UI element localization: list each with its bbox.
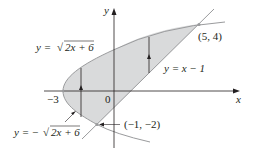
- svg-text:√: √: [43, 126, 50, 138]
- y-axis-label: y: [103, 4, 109, 16]
- point-5-4: [197, 23, 200, 26]
- point-label-5-4: (5, 4): [198, 30, 222, 43]
- origin-label: 0: [105, 93, 111, 105]
- upper-curve-label: y = √ 2x + 6: [35, 41, 94, 53]
- tick-label-neg3: −3: [47, 93, 59, 105]
- svg-text:y =: y =: [35, 41, 51, 53]
- svg-text:2x + 6: 2x + 6: [65, 41, 94, 53]
- region-diagram: y x 0 −3 y = √ 2x + 6 y = − √ 2x + 6 y =…: [0, 0, 255, 152]
- lower-curve-leader-arrow-icon: [71, 111, 76, 115]
- lower-curve-label: y = − √ 2x + 6: [13, 126, 80, 138]
- x-axis-label: x: [235, 93, 241, 105]
- y-axis-arrow-icon: [112, 8, 117, 15]
- point-neg3-0: [62, 90, 65, 93]
- svg-text:y = −: y = −: [13, 126, 39, 138]
- svg-text:√: √: [57, 41, 64, 53]
- line-label: y = x − 1: [163, 62, 205, 74]
- point-label-neg1-neg2: (−1, −2): [124, 118, 161, 131]
- svg-text:2x + 6: 2x + 6: [51, 126, 80, 138]
- shaded-region: [63, 24, 199, 125]
- point-neg1-neg2: [95, 123, 98, 126]
